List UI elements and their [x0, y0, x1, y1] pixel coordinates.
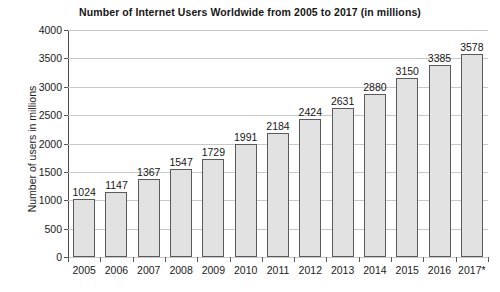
y-tick-mark	[64, 200, 68, 201]
bar[interactable]: 2424	[299, 119, 321, 257]
x-tick-label: 2014	[363, 264, 386, 276]
y-tick-mark	[64, 87, 68, 88]
x-tick-mark	[423, 257, 424, 262]
gridline	[68, 87, 488, 88]
x-tick-mark	[262, 257, 263, 262]
x-tick-mark	[68, 257, 69, 262]
y-tick-mark	[64, 172, 68, 173]
x-tick-label: 2012	[299, 264, 322, 276]
y-tick-label: 2000	[39, 138, 62, 150]
bar[interactable]: 2184	[267, 133, 289, 257]
bar[interactable]: 3578	[461, 54, 483, 257]
x-tick-label: 2010	[234, 264, 257, 276]
bar-value-label: 2880	[363, 81, 386, 93]
x-tick-mark	[488, 257, 489, 262]
bar[interactable]: 1147	[105, 192, 127, 257]
x-tick-mark	[197, 257, 198, 262]
y-tick-mark	[64, 229, 68, 230]
x-tick-mark	[391, 257, 392, 262]
y-tick-mark	[64, 58, 68, 59]
plot-area: 1024114713671547172919912184242426312880…	[68, 30, 488, 257]
y-tick-label: 3000	[39, 81, 62, 93]
bar[interactable]: 3150	[396, 78, 418, 257]
x-tick-label: 2016	[428, 264, 451, 276]
bar[interactable]: 1367	[138, 179, 160, 257]
gridline	[68, 58, 488, 59]
bar[interactable]: 1991	[235, 144, 257, 257]
chart-title: Number of Internet Users Worldwide from …	[0, 6, 500, 18]
bar-value-label: 3150	[396, 65, 419, 77]
x-tick-mark	[359, 257, 360, 262]
bar[interactable]: 3385	[429, 65, 451, 257]
y-tick-label: 1000	[39, 194, 62, 206]
bar-value-label: 2424	[299, 106, 322, 118]
x-tick-label: 2009	[202, 264, 225, 276]
bar[interactable]: 2631	[332, 108, 354, 257]
bar[interactable]: 1729	[202, 159, 224, 257]
x-tick-label: 2011	[267, 264, 290, 276]
x-tick-label: 2006	[105, 264, 128, 276]
bar[interactable]: 1547	[170, 169, 192, 257]
x-tick-label: 2015	[396, 264, 419, 276]
bar-value-label: 1367	[137, 166, 160, 178]
y-tick-label: 0	[56, 251, 62, 263]
bar[interactable]: 2880	[364, 94, 386, 257]
gridline	[68, 115, 488, 116]
x-tick-mark	[326, 257, 327, 262]
y-tick-label: 1500	[39, 166, 62, 178]
bar-value-label: 1729	[202, 146, 225, 158]
bar-value-label: 1547	[169, 156, 192, 168]
x-tick-mark	[100, 257, 101, 262]
x-tick-label: 2005	[72, 264, 95, 276]
x-tick-label: 2007	[137, 264, 160, 276]
bar-value-label: 1991	[234, 131, 257, 143]
bar-value-label: 2184	[266, 120, 289, 132]
x-tick-mark	[165, 257, 166, 262]
x-tick-label: 2017*	[458, 264, 485, 276]
x-tick-label: 2013	[331, 264, 354, 276]
y-tick-label: 500	[44, 223, 62, 235]
y-tick-mark	[64, 144, 68, 145]
bar-value-label: 1147	[105, 179, 128, 191]
y-tick-mark	[64, 30, 68, 31]
x-tick-mark	[230, 257, 231, 262]
y-axis-tick-labels: 05001000150020002500300035004000	[0, 30, 62, 257]
bar-chart: Number of Internet Users Worldwide from …	[0, 0, 500, 292]
x-tick-mark	[294, 257, 295, 262]
gridline	[68, 257, 488, 258]
y-tick-mark	[64, 115, 68, 116]
bar-value-label: 3385	[428, 52, 451, 64]
y-tick-label: 4000	[39, 24, 62, 36]
bar[interactable]: 1024	[73, 199, 95, 257]
x-tick-mark	[133, 257, 134, 262]
y-tick-label: 3500	[39, 52, 62, 64]
x-tick-label: 2008	[169, 264, 192, 276]
bar-value-label: 3578	[460, 41, 483, 53]
x-tick-mark	[456, 257, 457, 262]
y-tick-label: 2500	[39, 109, 62, 121]
bar-value-label: 1024	[72, 186, 95, 198]
bar-value-label: 2631	[331, 95, 354, 107]
gridline	[68, 30, 488, 31]
